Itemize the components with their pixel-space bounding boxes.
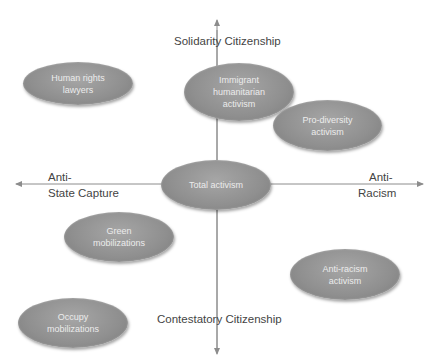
axis-label-right-line2: Racism bbox=[358, 186, 396, 201]
axis-label-right-line1: Anti- bbox=[369, 170, 393, 185]
node-text: Human rights bbox=[51, 72, 105, 84]
node-text: activism bbox=[302, 126, 352, 138]
node-green-mobilizations: Green mobilizations bbox=[64, 212, 174, 262]
node-text: Pro-diversity bbox=[302, 114, 352, 126]
node-text: Green bbox=[93, 225, 145, 237]
node-text: Immigrant bbox=[213, 74, 265, 86]
node-text: lawyers bbox=[51, 84, 105, 96]
node-text: Total activism bbox=[189, 179, 243, 191]
axis-label-left-line2: State Capture bbox=[48, 186, 119, 201]
node-total-activism: Total activism bbox=[161, 160, 271, 210]
node-text: mobilizations bbox=[47, 323, 99, 335]
node-text: mobilizations bbox=[93, 237, 145, 249]
node-text: Occupy bbox=[47, 311, 99, 323]
axis-label-left-line1: Anti- bbox=[48, 170, 72, 185]
node-text: Anti-racism bbox=[322, 263, 367, 275]
node-occupy-mobilizations: Occupy mobilizations bbox=[18, 298, 128, 348]
axis-label-bottom: Contestatory Citizenship bbox=[157, 312, 282, 327]
node-human-rights-lawyers: Human rights lawyers bbox=[23, 62, 133, 105]
axis-label-top: Solidarity Citizenship bbox=[174, 34, 281, 49]
node-text: activism bbox=[213, 98, 265, 110]
node-immigrant-humanitarian-activism: Immigrant humanitarian activism bbox=[184, 63, 294, 121]
node-anti-racism-activism: Anti-racism activism bbox=[290, 249, 400, 300]
node-pro-diversity-activism: Pro-diversity activism bbox=[273, 100, 382, 151]
node-text: activism bbox=[322, 275, 367, 287]
node-text: humanitarian bbox=[213, 86, 265, 98]
